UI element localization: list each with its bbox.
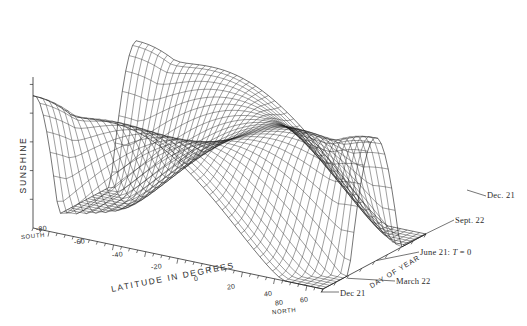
june21-value: = 0 (457, 247, 471, 257)
wireframe-mesh (33, 41, 426, 289)
day-marker-sept22: Sept. 22 (455, 215, 484, 225)
day-marker-dec21-end: Dec. 21 (487, 190, 515, 200)
day-marker-dec21-origin: Dec 21 (340, 288, 366, 298)
june21-text: June 21: (420, 247, 453, 257)
lat-tick-60: 60 (300, 296, 309, 304)
figure-canvas: SUNSHINE -80 -60 -40 -20 0 20 40 60 80 S… (0, 0, 527, 326)
lat-tick-40: 40 (264, 290, 273, 298)
lat-tick--40: -40 (112, 250, 123, 258)
surface-plot-svg (0, 0, 527, 326)
lat-tick-20: 20 (227, 283, 236, 291)
axis-label-sunshine: SUNSHINE (18, 130, 28, 200)
day-marker-march22: March 22 (396, 276, 430, 286)
lat-tick--60: -60 (74, 237, 85, 245)
lat-tick--20: -20 (151, 262, 162, 270)
lat-tick-80: 80 (275, 299, 284, 307)
day-marker-june21: June 21: T = 0 (420, 247, 472, 257)
